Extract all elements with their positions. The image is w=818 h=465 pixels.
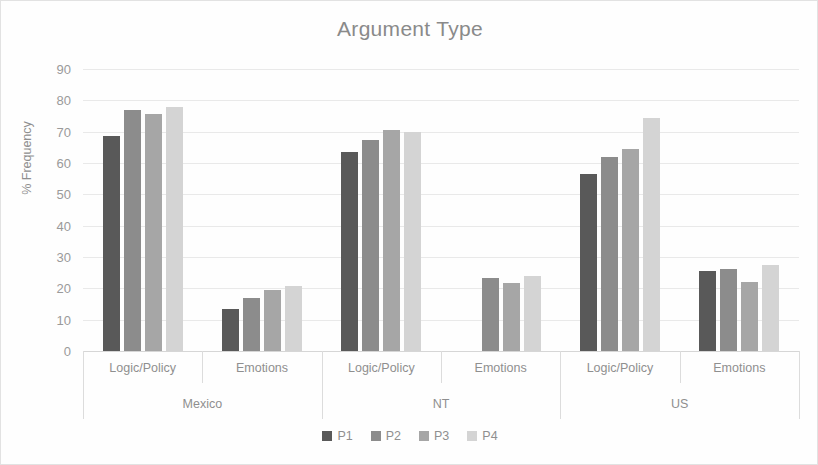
- bar-p3: [741, 282, 758, 351]
- bar-p2: [482, 278, 499, 351]
- y-axis-tick-label: 0: [11, 344, 71, 359]
- legend-swatch-icon: [467, 431, 477, 441]
- bar-p2: [601, 157, 618, 351]
- bar-p1: [341, 152, 358, 351]
- chart-title: Argument Type: [1, 17, 818, 41]
- chart-container: Argument Type % Frequency 90807060504030…: [0, 0, 818, 465]
- legend-item-p4[interactable]: P4: [467, 429, 497, 443]
- bar-p3: [503, 283, 520, 351]
- x-axis-group-label: Mexico: [183, 397, 223, 411]
- plot-area: [83, 69, 799, 351]
- x-axis-subcategory-label: Emotions: [713, 361, 765, 375]
- y-axis-tick-label: 80: [11, 93, 71, 108]
- x-axis-subcategory-separator: [680, 351, 681, 383]
- x-axis-group-label: US: [671, 397, 688, 411]
- x-axis-group-label: NT: [433, 397, 450, 411]
- bar-p3: [383, 130, 400, 351]
- x-axis-subcategory-separator: [202, 351, 203, 383]
- legend-swatch-icon: [322, 431, 332, 441]
- legend-swatch-icon: [419, 431, 429, 441]
- y-axis-tick-label: 10: [11, 312, 71, 327]
- legend-item-p1[interactable]: P1: [322, 429, 352, 443]
- x-axis-subcategory-label: Logic/Policy: [587, 361, 654, 375]
- legend-item-p2[interactable]: P2: [371, 429, 401, 443]
- legend-label: P2: [386, 429, 401, 443]
- bar-p2: [243, 298, 260, 351]
- y-axis-tick-label: 70: [11, 124, 71, 139]
- legend-item-p3[interactable]: P3: [419, 429, 449, 443]
- bar-p1: [580, 174, 597, 351]
- x-axis-group-separator: [83, 351, 84, 419]
- bar-p3: [145, 114, 162, 351]
- bar-p1: [222, 309, 239, 351]
- bar-p1: [103, 136, 120, 351]
- x-axis-subcategory-label: Logic/Policy: [109, 361, 176, 375]
- chart-legend: P1P2P3P4: [1, 429, 818, 443]
- bar-p2: [362, 140, 379, 352]
- bar-p4: [404, 132, 421, 351]
- bar-p3: [264, 290, 281, 351]
- bar-p2: [720, 269, 737, 351]
- bar-p4: [524, 276, 541, 351]
- x-axis-group-separator: [322, 351, 323, 419]
- legend-label: P4: [482, 429, 497, 443]
- bar-p3: [622, 149, 639, 351]
- legend-swatch-icon: [371, 431, 381, 441]
- bar-p4: [762, 265, 779, 351]
- y-axis-tick-label: 30: [11, 250, 71, 265]
- x-axis-subcategory-label: Emotions: [475, 361, 527, 375]
- y-axis-tick-label: 60: [11, 156, 71, 171]
- x-axis-subcategory-label: Emotions: [236, 361, 288, 375]
- x-axis-group-separator: [799, 351, 800, 419]
- y-axis-tick-label: 20: [11, 281, 71, 296]
- y-axis-tick-label: 90: [11, 62, 71, 77]
- legend-label: P3: [434, 429, 449, 443]
- x-axis-subcategory-separator: [441, 351, 442, 383]
- bar-p4: [285, 286, 302, 351]
- bar-p4: [643, 118, 660, 351]
- y-axis-tick-label: 50: [11, 187, 71, 202]
- legend-label: P1: [337, 429, 352, 443]
- x-axis-group-separator: [560, 351, 561, 419]
- bar-p2: [124, 110, 141, 351]
- bar-p1: [699, 271, 716, 351]
- bar-p4: [166, 107, 183, 351]
- y-axis-tick-label: 40: [11, 218, 71, 233]
- x-axis-subcategory-label: Logic/Policy: [348, 361, 415, 375]
